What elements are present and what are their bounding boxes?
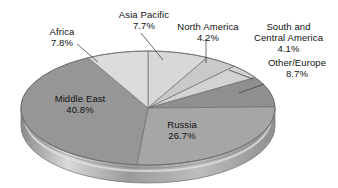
label-south-central-america-name-line1: South and	[241, 21, 336, 32]
label-north-america: North America 4.2%	[166, 21, 250, 43]
label-other-europe-name: Other/Europe	[258, 57, 336, 68]
label-russia-name: Russia	[149, 119, 215, 130]
label-asia-pacific-name: Asia Pacific	[106, 9, 182, 20]
label-africa-pct: 7.8%	[38, 37, 86, 48]
label-middle-east: Middle East 40.8%	[34, 93, 126, 115]
label-africa-name: Africa	[38, 26, 86, 37]
label-africa: Africa 7.8%	[38, 26, 86, 48]
label-other-europe-pct: 8.7%	[258, 68, 336, 79]
label-north-america-name: North America	[166, 21, 250, 32]
label-other-europe: Other/Europe 8.7%	[258, 57, 336, 79]
label-south-central-america-pct: 4.1%	[241, 43, 336, 54]
label-south-central-america: South and Central America 4.1%	[241, 21, 336, 54]
label-russia-pct: 26.7%	[149, 130, 215, 141]
label-middle-east-name: Middle East	[34, 93, 126, 104]
label-north-america-pct: 4.2%	[166, 32, 250, 43]
label-middle-east-pct: 40.8%	[34, 104, 126, 115]
pie-chart: Africa 7.8% Asia Pacific 7.7% North Amer…	[0, 0, 338, 188]
label-south-central-america-name-line2: Central America	[241, 32, 336, 43]
label-russia: Russia 26.7%	[149, 119, 215, 141]
